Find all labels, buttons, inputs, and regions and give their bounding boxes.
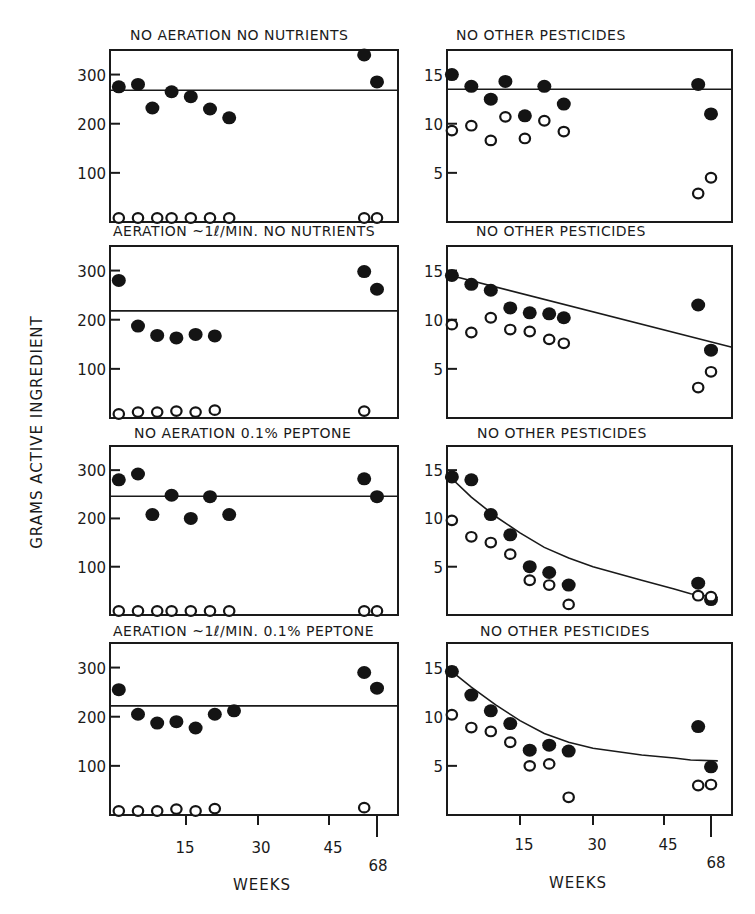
filled-data-point [131, 78, 145, 91]
filled-data-point [518, 109, 532, 122]
open-data-point [205, 606, 215, 616]
open-data-point [447, 516, 457, 526]
open-data-point [152, 806, 162, 816]
y-tick-label: 100 [77, 361, 106, 379]
y-tick-label: 300 [77, 462, 106, 480]
filled-data-point [370, 283, 384, 296]
filled-data-point [165, 489, 179, 502]
open-data-point [133, 606, 143, 616]
y-axis-label: GRAMS ACTIVE INGREDIENT [28, 315, 46, 549]
filled-data-point [445, 68, 459, 81]
filled-data-point [498, 75, 512, 88]
filled-data-point [691, 577, 705, 590]
open-data-point [372, 606, 382, 616]
filled-data-point [503, 717, 517, 730]
filled-data-point [542, 566, 556, 579]
open-data-point [186, 213, 196, 223]
filled-data-point [208, 329, 222, 342]
y-tick-label: 300 [77, 660, 106, 678]
open-data-point [500, 112, 510, 122]
open-data-point [447, 126, 457, 136]
filled-data-point [557, 98, 571, 111]
y-tick-label: 5 [433, 361, 443, 379]
plot-frame [447, 446, 732, 615]
x-tick-68-left: 68 [368, 857, 387, 875]
filled-data-point [503, 301, 517, 314]
plot-frame [110, 643, 398, 815]
filled-data-point [484, 93, 498, 106]
open-data-point [359, 803, 369, 813]
filled-data-point [691, 78, 705, 91]
y-tick-label: 10 [424, 312, 443, 330]
x-axis-label-left: WEEKS [233, 876, 291, 894]
open-data-point [505, 737, 515, 747]
y-tick-label: 200 [77, 709, 106, 727]
x-tick-15-left: 15 [175, 839, 194, 857]
filled-data-point [131, 320, 145, 333]
row1-right-title: NO OTHER PESTICIDES [456, 27, 626, 43]
open-data-point [186, 606, 196, 616]
figure: GRAMS ACTIVE INGREDIENT NO AERATION NO N… [0, 0, 755, 914]
filled-data-point [189, 722, 203, 735]
filled-data-point [112, 274, 126, 287]
open-data-point [205, 213, 215, 223]
filled-data-point [370, 682, 384, 695]
fit-curve [447, 474, 718, 598]
open-data-point [114, 806, 124, 816]
y-tick-label: 200 [77, 312, 106, 330]
plot-frame [447, 246, 732, 418]
filled-data-point [357, 472, 371, 485]
row2-left-title: AERATION ~1ℓ/MIN. NO NUTRIENTS [113, 223, 375, 239]
filled-data-point [184, 90, 198, 103]
y-tick-label: 100 [77, 559, 106, 577]
row3-right-title: NO OTHER PESTICIDES [477, 425, 647, 441]
filled-data-point [131, 468, 145, 481]
open-data-point [693, 591, 703, 601]
open-data-point [152, 213, 162, 223]
filled-data-point [691, 298, 705, 311]
filled-data-point [484, 508, 498, 521]
row1-left-title: NO AERATION NO NUTRIENTS [130, 27, 348, 43]
open-data-point [706, 367, 716, 377]
open-data-point [466, 121, 476, 131]
open-data-point [544, 759, 554, 769]
filled-data-point [542, 739, 556, 752]
filled-data-point [150, 717, 164, 730]
open-data-point [505, 549, 515, 559]
plot-frame [110, 50, 398, 222]
filled-data-point [203, 102, 217, 115]
filled-data-point [112, 683, 126, 696]
filled-data-point [370, 490, 384, 503]
filled-data-point [503, 528, 517, 541]
filled-data-point [165, 85, 179, 98]
filled-data-point [445, 665, 459, 678]
open-data-point [166, 606, 176, 616]
open-data-point [210, 804, 220, 814]
y-tick-label: 15 [424, 660, 443, 678]
filled-data-point [537, 80, 551, 93]
y-tick-label: 5 [433, 559, 443, 577]
filled-data-point [189, 328, 203, 341]
filled-data-point [562, 579, 576, 592]
filled-data-point [445, 269, 459, 282]
filled-data-point [184, 512, 198, 525]
open-data-point [693, 189, 703, 199]
filled-data-point [445, 470, 459, 483]
open-data-point [372, 213, 382, 223]
filled-data-point [562, 745, 576, 758]
filled-data-point [542, 307, 556, 320]
open-data-point [171, 804, 181, 814]
filled-data-point [484, 284, 498, 297]
open-data-point [190, 806, 200, 816]
filled-data-point [370, 75, 384, 88]
open-data-point [559, 127, 569, 137]
open-data-point [706, 592, 716, 602]
y-tick-label: 10 [424, 709, 443, 727]
open-data-point [133, 213, 143, 223]
filled-data-point [484, 704, 498, 717]
filled-data-point [704, 760, 718, 773]
filled-data-point [523, 744, 537, 757]
open-data-point [114, 409, 124, 419]
open-data-point [114, 606, 124, 616]
filled-data-point [704, 107, 718, 120]
